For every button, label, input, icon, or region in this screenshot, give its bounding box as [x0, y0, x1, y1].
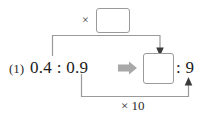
- result-left-term-answer-box[interactable]: [143, 53, 174, 84]
- bottom-multiplier-label: × 10: [121, 99, 145, 112]
- original-ratio-text: 0.4 : 0.9: [30, 59, 88, 76]
- block-arrow-shape: [118, 62, 137, 75]
- bottom-multiplier-connector: [82, 74, 193, 97]
- transform-block-arrow-icon: [118, 62, 137, 75]
- top-multiplier-answer-box[interactable]: [96, 8, 130, 33]
- item-number-label: (1): [9, 62, 24, 75]
- bottom-connector-arrowhead-up: [185, 77, 193, 86]
- top-multiplier-symbol: ×: [82, 14, 89, 26]
- ratio-diagram: (1) 0.4 : 0.9 : 9 × × 10: [0, 0, 207, 125]
- result-ratio-tail-text: : 9: [176, 59, 194, 76]
